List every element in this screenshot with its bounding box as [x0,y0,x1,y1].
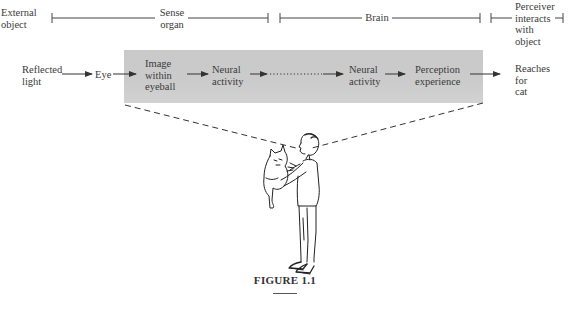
flow-neural-activity-1: Neural activity [212,64,244,87]
dashed-line-left [125,105,296,148]
label-line: cat [515,86,550,98]
label-line: eyeball [145,81,175,93]
person-holding-cat-illustration [264,133,320,274]
label-line: External [1,7,37,19]
flow-perception-experience: Perception experience [415,64,460,87]
label-line: within [145,70,175,82]
flow-reflected-light: Reflected light [22,64,62,87]
label-line: Sense [152,7,192,19]
label-line: organ [152,19,192,31]
caption-rule [273,293,297,294]
flow-neural-activity-2: Neural activity [349,64,381,87]
label-line: experience [415,76,460,88]
flow-image-within-eyeball: Image within eyeball [145,58,175,93]
flow-eye: Eye [95,69,111,81]
dashed-line-right [312,103,483,148]
stage-external-object: External object [1,7,37,30]
label-line: Reflected [22,64,62,76]
figure-caption: FIGURE 1.1 [0,274,570,286]
label-line: Neural [349,64,381,76]
label-line: interacts [515,13,555,25]
diagram-lines [0,0,570,309]
label-line: Reaches [515,63,550,75]
label-line: object [515,36,555,48]
label-line: Image [145,58,175,70]
stage-perceiver-interacts: Perceiver interacts with object [515,1,555,47]
label-line: Neural [212,64,244,76]
stage-sense-organ: Sense organ [152,7,192,30]
label-line: activity [349,76,381,88]
label-line: for [515,75,550,87]
stage-brain: Brain [360,12,394,24]
label-line: Perception [415,64,460,76]
label-line: activity [212,76,244,88]
label-line: object [1,19,37,31]
label-line: Perceiver [515,1,555,13]
label-line: light [22,76,62,88]
label-line: with [515,24,555,36]
flow-reaches-for-cat: Reaches for cat [515,63,550,98]
